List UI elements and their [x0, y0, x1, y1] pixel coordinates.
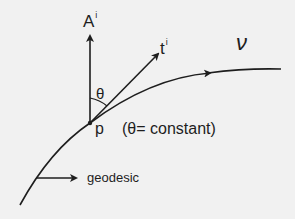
angle-label: θ [96, 86, 104, 101]
geodesic-curve [20, 73, 210, 205]
point-label: p [95, 121, 104, 137]
geodesic-label: geodesic [87, 171, 139, 184]
condition-label: (θ= constant) [122, 121, 216, 137]
geodesic-curve-tail [208, 69, 281, 73]
vector-A-label: Ai [83, 13, 97, 30]
point-p [88, 121, 92, 125]
vector-t-label: ti [160, 40, 168, 57]
curve-label: ν [236, 32, 247, 54]
diagram-canvas [0, 0, 295, 219]
